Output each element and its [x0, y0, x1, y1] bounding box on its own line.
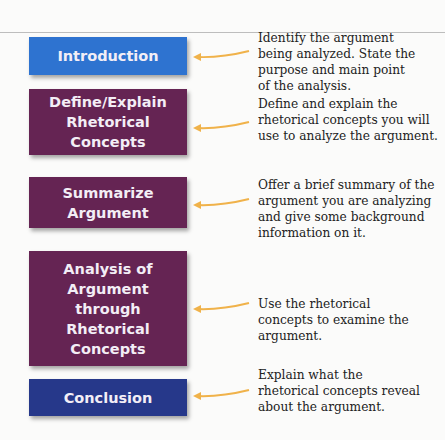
- step-description: Explain what the rhetorical concepts rev…: [258, 367, 423, 415]
- step-description: Offer a brief summary of the argument yo…: [258, 177, 443, 241]
- step-label: Summarize Argument: [29, 183, 187, 223]
- step-define-explain: Define/Explain Rhetorical Concepts: [29, 89, 187, 155]
- step-label: Conclusion: [64, 388, 153, 408]
- step-introduction: Introduction: [29, 37, 187, 75]
- arrow-left-icon: [191, 119, 251, 135]
- step-description: Identify the argument being analyzed. St…: [258, 30, 418, 94]
- arrow-left-icon: [191, 387, 251, 403]
- step-analysis: Analysis of Argument through Rhetorical …: [29, 251, 187, 366]
- step-summarize: Summarize Argument: [29, 177, 187, 228]
- step-label: Define/Explain Rhetorical Concepts: [29, 92, 187, 152]
- arrow-left-icon: [191, 48, 251, 64]
- step-label: Analysis of Argument through Rhetorical …: [29, 259, 187, 359]
- arrow-left-icon: [191, 196, 251, 212]
- step-description: Use the rhetorical concepts to examine t…: [258, 296, 428, 344]
- step-conclusion: Conclusion: [29, 379, 187, 416]
- step-description: Define and explain the rhetorical concep…: [258, 96, 438, 144]
- arrow-left-icon: [191, 300, 251, 316]
- step-label: Introduction: [57, 46, 158, 66]
